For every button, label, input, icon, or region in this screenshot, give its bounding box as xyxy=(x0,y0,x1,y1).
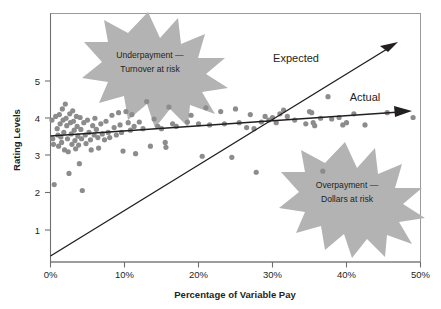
y-tick-label-4: 4 xyxy=(35,113,40,124)
y-axis-title: Rating Levels xyxy=(11,109,22,171)
scatter-point xyxy=(254,170,259,175)
scatter-point xyxy=(76,142,81,147)
scatter-point xyxy=(148,144,153,149)
scatter-point xyxy=(103,119,108,124)
scatter-point xyxy=(285,114,290,119)
scatter-point xyxy=(137,119,142,124)
scatter-point xyxy=(107,135,112,140)
y-tick-label-2: 2 xyxy=(35,187,40,198)
scatter-point xyxy=(132,124,137,129)
scatter-point xyxy=(72,138,77,143)
scatter-point xyxy=(57,112,62,117)
scatter-point xyxy=(85,118,90,123)
scatter-point xyxy=(65,136,70,141)
y-tick-label-3: 3 xyxy=(35,150,40,161)
x-tick-label-30: 30% xyxy=(263,269,283,280)
scatter-point xyxy=(60,106,65,111)
scatter-point xyxy=(133,151,138,156)
scatter-point xyxy=(71,119,76,124)
scatter-point xyxy=(325,94,330,99)
scatter-point xyxy=(362,122,367,127)
actual-line-label: Actual xyxy=(350,91,381,103)
scatter-point xyxy=(344,120,349,125)
scatter-point xyxy=(89,147,94,152)
scatter-point xyxy=(96,145,101,150)
x-tick-label-0: 0% xyxy=(44,269,58,280)
scatter-point xyxy=(61,130,66,135)
x-tick-label-40: 40% xyxy=(337,269,357,280)
y-tick-label-5: 5 xyxy=(35,76,40,87)
scatter-point xyxy=(229,155,234,160)
x-tick-label-10: 10% xyxy=(115,269,135,280)
scatter-point xyxy=(83,141,88,146)
x-tick-label-50: 50% xyxy=(411,269,431,280)
scatter-point xyxy=(94,127,99,132)
scatter-point xyxy=(78,127,83,132)
scatter-point xyxy=(200,154,205,159)
scatter-point xyxy=(166,104,171,109)
scatter-point xyxy=(203,105,208,110)
scatter-point xyxy=(120,148,125,153)
scatter-point xyxy=(292,118,297,123)
scatter-point xyxy=(126,120,131,125)
scatter-point xyxy=(109,113,114,118)
scatter-point xyxy=(248,112,253,117)
scatter-point xyxy=(66,149,71,154)
y-tick-label-1: 1 xyxy=(35,225,40,236)
underpayment-burst-line2: Turnover at risk xyxy=(120,64,180,74)
scatter-point xyxy=(152,116,157,121)
scatter-point xyxy=(79,136,84,141)
scatter-point xyxy=(189,113,194,118)
scatter-point xyxy=(63,101,68,106)
overpayment-burst-line1: Overpayment — xyxy=(316,180,379,190)
expected-line-label: Expected xyxy=(273,52,319,64)
scatter-point xyxy=(174,124,179,129)
scatter-point xyxy=(86,130,91,135)
scatter-point xyxy=(59,140,64,145)
scatter-point xyxy=(263,114,268,119)
scatter-point xyxy=(309,110,314,115)
scatter-point xyxy=(98,121,103,126)
scatter-point xyxy=(78,115,83,120)
scatter-point xyxy=(50,136,55,141)
scatter-point xyxy=(66,171,71,176)
underpayment-burst-line1: Underpayment — xyxy=(116,50,184,60)
scatter-point xyxy=(112,125,117,130)
scatter-point xyxy=(114,132,119,137)
scatter-point xyxy=(233,106,238,111)
scatter-chart: 5 4 3 2 1 0% 10% 20% 30% 40% 50% Percent… xyxy=(0,0,441,309)
scatter-point xyxy=(49,118,54,123)
scatter-point xyxy=(117,122,122,127)
scatter-point xyxy=(88,137,93,142)
scatter-point xyxy=(303,121,308,126)
scatter-point xyxy=(80,188,85,193)
scatter-point xyxy=(70,108,75,113)
scatter-point xyxy=(144,99,149,104)
scatter-point xyxy=(77,161,82,166)
scatter-point xyxy=(55,126,60,131)
scatter-point xyxy=(116,110,121,115)
scatter-point xyxy=(52,182,57,187)
scatter-point xyxy=(92,116,97,121)
chart-canvas: 5 4 3 2 1 0% 10% 20% 30% 40% 50% Percent… xyxy=(0,0,441,309)
scatter-point xyxy=(218,109,223,114)
scatter-point xyxy=(95,135,100,140)
scatter-point xyxy=(102,137,107,142)
scatter-point xyxy=(320,169,325,174)
x-axis-title: Percentage of Variable Pay xyxy=(174,289,296,300)
scatter-point xyxy=(51,142,56,147)
scatter-point xyxy=(411,115,416,120)
scatter-point xyxy=(244,125,249,130)
scatter-point xyxy=(140,126,145,131)
scatter-point xyxy=(312,123,317,128)
x-tick-label-20: 20% xyxy=(189,269,209,280)
scatter-point xyxy=(163,140,168,145)
scatter-point xyxy=(129,112,134,117)
scatter-point xyxy=(123,109,128,114)
scatter-point xyxy=(63,116,68,121)
scatter-point xyxy=(185,119,190,124)
overpayment-burst-line2: Dollars at risk xyxy=(321,194,374,204)
scatter-point xyxy=(90,123,95,128)
scatter-point xyxy=(163,145,168,150)
